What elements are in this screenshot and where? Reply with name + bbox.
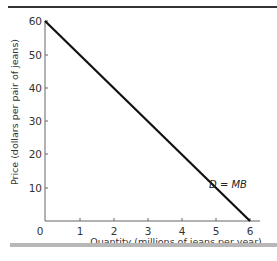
y-tick-label: 60 <box>29 15 42 27</box>
y-tick-label: 40 <box>29 82 42 94</box>
y-tick-label: 50 <box>29 49 42 61</box>
x-tick-label: 0 <box>37 225 44 237</box>
y-tick-label: 30 <box>29 115 42 127</box>
x-tick-label: 1 <box>77 225 84 237</box>
y-axis-title: Price (dollars per pair of jeans) <box>9 39 20 185</box>
curve-label: D = MB <box>209 179 247 190</box>
y-tick-label: 20 <box>29 148 42 160</box>
demand-chart: 10 20 30 40 50 60 0 1 2 3 4 5 6 D = MB Q… <box>0 0 277 261</box>
y-tick-label: 10 <box>29 182 42 194</box>
bottom-rule <box>10 243 277 247</box>
demand-curve <box>45 21 250 221</box>
